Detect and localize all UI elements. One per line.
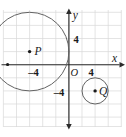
x-tick-label-pos4: 4 [88, 67, 94, 78]
y-tick-label-pos4: 4 [73, 34, 79, 45]
point-p-label: P [34, 45, 42, 57]
point-q-marker [93, 89, 96, 92]
point-on-circle-p-marker [6, 63, 9, 66]
origin-label: O [71, 67, 79, 78]
x-tick-label-neg4: –4 [27, 67, 39, 78]
x-axis-label: x [111, 52, 118, 64]
point-q-label: Q [99, 85, 108, 97]
y-tick-label-neg4: –4 [53, 87, 65, 98]
y-axis-label: y [72, 9, 79, 22]
coordinate-plane-figure: P Q x y O –4 4 4 –4 [0, 0, 126, 137]
figure-background [0, 0, 126, 137]
coordinate-plane-svg: P Q x y O –4 4 4 –4 [0, 0, 126, 137]
point-p-marker [28, 50, 31, 53]
